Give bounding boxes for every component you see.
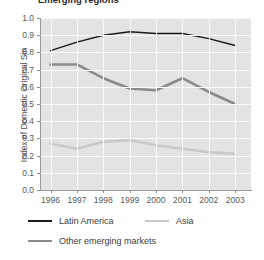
- y-tick-mark: [37, 87, 40, 88]
- y-tick-mark: [37, 190, 40, 191]
- x-tick-mark: [77, 190, 78, 193]
- gridline-horizontal: [40, 104, 251, 105]
- legend-item-latin-america[interactable]: Latin America: [28, 214, 114, 228]
- page-title: Emerging regions: [38, 0, 238, 6]
- legend-label-other-emerging-markets: Other emerging markets: [59, 236, 156, 246]
- x-tick-mark: [182, 190, 183, 193]
- gridline-horizontal: [40, 52, 251, 53]
- x-tick-mark: [130, 190, 131, 193]
- gridline-horizontal: [40, 173, 251, 174]
- x-tick-mark: [235, 190, 236, 193]
- y-tick-mark: [37, 121, 40, 122]
- y-tick-mark: [37, 156, 40, 157]
- gridline-vertical: [77, 18, 78, 190]
- gridline-horizontal: [40, 35, 251, 36]
- y-tick-mark: [37, 35, 40, 36]
- y-tick-mark: [37, 52, 40, 53]
- y-tick-mark: [37, 18, 40, 19]
- y-tick-label: 0.8: [4, 48, 34, 56]
- y-tick-label: 0.1: [4, 169, 34, 177]
- y-tick-mark: [37, 138, 40, 139]
- y-tick-label: 1.0: [4, 14, 34, 22]
- x-tick-mark: [156, 190, 157, 193]
- y-tick-mark: [37, 104, 40, 105]
- gridline-horizontal: [40, 87, 251, 88]
- y-axis-line: [40, 18, 41, 191]
- legend-item-asia[interactable]: Asia: [145, 214, 194, 228]
- legend-label-latin-america: Latin America: [59, 216, 114, 226]
- gridline-horizontal: [40, 156, 251, 157]
- y-tick-label: 0.6: [4, 83, 34, 91]
- y-tick-label: 0.4: [4, 117, 34, 125]
- x-tick-mark: [209, 190, 210, 193]
- y-tick-label: 0.2: [4, 152, 34, 160]
- gridline-vertical: [235, 18, 236, 190]
- gridline-vertical: [156, 18, 157, 190]
- y-tick-label: 0.3: [4, 134, 34, 142]
- gridline-vertical: [51, 18, 52, 190]
- gridline-vertical: [209, 18, 210, 190]
- gridline-vertical: [103, 18, 104, 190]
- gridline-horizontal: [40, 18, 251, 19]
- x-tick-mark: [51, 190, 52, 193]
- gridline-vertical: [182, 18, 183, 190]
- legend-line-swatch-other-emerging-markets: [28, 240, 52, 242]
- x-tick-label: 2003: [218, 196, 252, 205]
- y-tick-mark: [37, 173, 40, 174]
- gridline-horizontal: [40, 138, 251, 139]
- legend-item-other-emerging-markets[interactable]: Other emerging markets: [28, 234, 156, 248]
- gridline-horizontal: [40, 70, 251, 71]
- plot-area: [40, 18, 251, 190]
- legend-line-swatch-asia: [145, 220, 169, 222]
- gridline-vertical: [130, 18, 131, 190]
- legend-line-swatch-latin-america: [28, 220, 52, 222]
- y-tick-label: 0.9: [4, 31, 34, 39]
- legend-label-asia: Asia: [176, 216, 194, 226]
- y-tick-label: 0.0: [4, 186, 34, 194]
- chart-figure: Emerging regions Index of Domestic Origi…: [0, 0, 264, 260]
- series-line-asia: [51, 140, 236, 154]
- x-axis-line: [40, 190, 252, 191]
- y-tick-mark: [37, 70, 40, 71]
- gridline-horizontal: [40, 121, 251, 122]
- y-tick-label: 0.5: [4, 100, 34, 108]
- chart-legend: Latin America Asia Other emerging market…: [28, 214, 260, 256]
- x-tick-mark: [103, 190, 104, 193]
- y-tick-label: 0.7: [4, 66, 34, 74]
